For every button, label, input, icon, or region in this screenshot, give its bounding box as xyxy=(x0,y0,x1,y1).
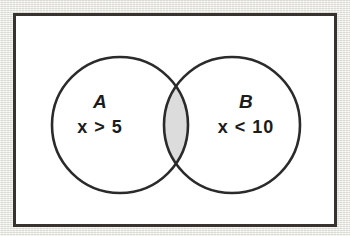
set-b-label-group: B x < 10 xyxy=(198,92,294,136)
set-a-condition: x > 5 xyxy=(58,118,142,136)
set-b-name: B xyxy=(198,92,294,111)
set-b-condition: x < 10 xyxy=(198,118,294,136)
set-a-name: A xyxy=(58,92,142,111)
set-a-label-group: A x > 5 xyxy=(58,92,142,136)
figure-root: A x > 5 B x < 10 xyxy=(0,0,350,236)
